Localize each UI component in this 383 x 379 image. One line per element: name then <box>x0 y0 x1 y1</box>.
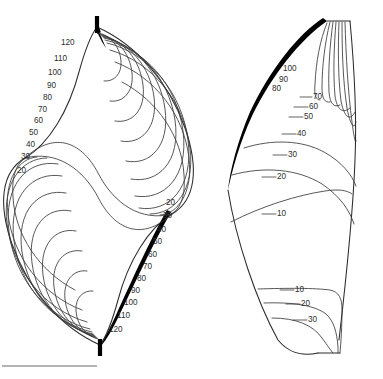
left-label-80-lower: 80 <box>137 274 147 283</box>
left-contour-40 <box>110 50 191 214</box>
left-label-80-upper: 80 <box>43 93 53 102</box>
right-label-100: 100 <box>283 64 297 73</box>
left-label-70-lower: 70 <box>143 262 153 271</box>
left-inner-separatrix-lower <box>25 142 172 216</box>
left-label-100-lower: 100 <box>124 298 138 307</box>
contour-figure: 120 110 100 90 80 70 60 50 40 30 20 20 3… <box>0 0 383 379</box>
left-contour-90-lower <box>42 230 95 336</box>
left-contour-50-lower <box>8 163 90 329</box>
left-label-120-lower: 120 <box>109 325 123 334</box>
left-label-40-lower: 40 <box>157 225 167 234</box>
left-label-30-lower: 30 <box>163 211 173 220</box>
left-label-40-upper: 40 <box>26 140 36 149</box>
left-label-20-upper: 20 <box>17 166 27 175</box>
figure-container: 120 110 100 90 80 70 60 50 40 30 20 20 3… <box>0 0 383 379</box>
left-contour-50 <box>107 43 189 209</box>
left-label-110-upper: 110 <box>54 54 67 63</box>
right-contour-30-low <box>272 318 333 353</box>
left-contour-60 <box>105 40 184 197</box>
left-label-60-upper: 60 <box>34 116 44 125</box>
left-contour-80-lower <box>31 210 94 335</box>
right-contour-20-mid <box>232 170 354 224</box>
left-contour-90 <box>102 36 155 142</box>
right-label-30-low: 30 <box>308 315 318 324</box>
right-outline-left-lower <box>228 190 318 354</box>
right-label-10-low: 10 <box>295 285 305 294</box>
left-label-50-upper: 50 <box>29 128 39 137</box>
right-label-10: 10 <box>277 209 287 218</box>
left-label-50-lower: 50 <box>153 237 163 246</box>
left-contour-40-lower <box>6 158 87 322</box>
left-inner-separatrix-upper <box>25 156 172 230</box>
left-label-70-upper: 70 <box>38 105 48 114</box>
right-contour-10-low <box>258 288 342 353</box>
right-label-20: 20 <box>277 172 287 181</box>
left-outline-right <box>97 27 193 345</box>
left-label-20-lower: 20 <box>166 198 176 207</box>
right-contour-100 <box>315 23 327 100</box>
left-label-90-upper: 90 <box>47 81 57 90</box>
right-panel: 100 90 80 70 60 50 40 30 20 10 10 20 30 <box>228 18 356 354</box>
left-contour-120-lower <box>76 291 98 339</box>
left-contour-80 <box>103 37 166 162</box>
right-label-80: 80 <box>272 84 282 93</box>
left-label-90-lower: 90 <box>131 286 141 295</box>
right-contour-30-mid <box>244 142 356 186</box>
left-contour-60-lower <box>13 175 92 332</box>
left-label-110-lower: 110 <box>117 311 130 320</box>
right-label-30: 30 <box>288 150 298 159</box>
left-label-100-upper: 100 <box>48 68 62 77</box>
left-label-120-upper: 120 <box>61 38 75 47</box>
right-label-50: 50 <box>304 112 314 121</box>
right-label-90: 90 <box>279 75 289 84</box>
right-label-40: 40 <box>297 129 307 138</box>
left-label-60-lower: 60 <box>148 250 158 259</box>
left-label-30-upper: 30 <box>21 152 31 161</box>
right-label-20-low: 20 <box>301 299 311 308</box>
right-label-70: 70 <box>313 92 323 101</box>
left-panel: 120 110 100 90 80 70 60 50 40 30 20 20 3… <box>4 16 194 356</box>
right-contour-10-mid <box>231 190 352 222</box>
right-label-60: 60 <box>309 102 319 111</box>
